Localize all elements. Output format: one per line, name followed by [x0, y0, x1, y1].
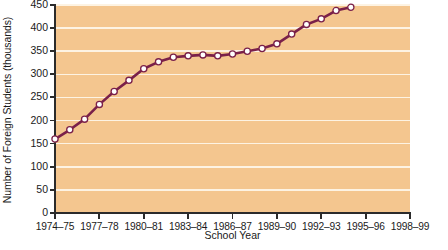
- data-point-marker: [333, 7, 339, 13]
- y-tick-label: 150: [18, 137, 48, 149]
- plot-area-wrapper: 050100150200250300350400450 1974–751977–…: [55, 5, 410, 213]
- data-point-marker: [289, 31, 295, 37]
- data-point-marker: [96, 101, 102, 107]
- y-tick-label: 50: [18, 183, 48, 195]
- data-point-marker: [155, 59, 161, 65]
- data-point-marker: [111, 88, 117, 94]
- y-tick-label: 250: [18, 90, 48, 102]
- data-point-marker: [259, 45, 265, 51]
- x-tick-mark: [232, 213, 234, 219]
- y-axis-title: Number of Foreign Students (thousands): [0, 0, 14, 220]
- y-tick-label: 300: [18, 67, 48, 79]
- y-tick-label: 350: [18, 44, 48, 56]
- chart-figure: Number of Foreign Students (thousands) 0…: [0, 0, 448, 250]
- y-tick-label: 0: [18, 206, 48, 218]
- x-tick-mark: [143, 213, 145, 219]
- data-point-marker: [81, 116, 87, 122]
- x-tick-mark: [54, 213, 56, 219]
- data-point-marker: [244, 48, 250, 54]
- x-tick-mark: [187, 213, 189, 219]
- x-tick-mark: [409, 213, 411, 219]
- data-point-marker: [141, 66, 147, 72]
- data-point-marker: [274, 41, 280, 47]
- y-tick-label: 100: [18, 160, 48, 172]
- data-point-marker: [126, 77, 132, 83]
- y-tick-label: 400: [18, 21, 48, 33]
- x-tick-mark: [320, 213, 322, 219]
- x-tick-mark: [276, 213, 278, 219]
- data-point-marker: [318, 16, 324, 22]
- x-axis-title: School Year: [55, 229, 410, 241]
- x-tick-mark: [98, 213, 100, 219]
- y-tick-label: 450: [18, 0, 48, 10]
- data-point-marker: [200, 52, 206, 58]
- y-tick-label: 200: [18, 114, 48, 126]
- data-point-marker: [52, 136, 58, 142]
- data-point-marker: [303, 21, 309, 27]
- x-tick-mark: [365, 213, 367, 219]
- data-point-marker: [229, 51, 235, 57]
- data-point-marker: [170, 54, 176, 60]
- data-point-marker: [348, 4, 354, 10]
- data-point-marker: [67, 127, 73, 133]
- data-point-marker: [215, 53, 221, 59]
- data-point-marker: [185, 53, 191, 59]
- data-series-line: [55, 5, 410, 213]
